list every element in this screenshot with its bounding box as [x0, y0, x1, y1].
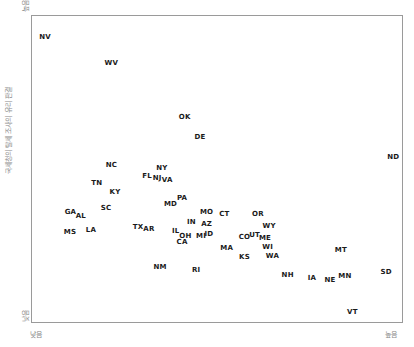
x-axis-low-label: 낮음	[30, 329, 42, 339]
data-point-me: ME	[259, 234, 271, 242]
data-point-pa: PA	[177, 194, 187, 202]
y-axis-low-label: 낮음	[20, 310, 30, 322]
data-point-ga: GA	[65, 208, 77, 216]
data-point-or: OR	[252, 210, 264, 218]
data-point-nc: NC	[106, 161, 117, 169]
data-point-ok: OK	[179, 113, 191, 121]
data-point-nv: NV	[39, 33, 51, 41]
data-point-sc: SC	[101, 204, 112, 212]
data-point-wv: WV	[105, 59, 119, 67]
data-point-ri: RI	[192, 266, 200, 274]
data-point-ca: CA	[177, 238, 188, 246]
data-point-tx: TX	[133, 223, 144, 231]
data-point-wi: WI	[262, 243, 273, 251]
x-axis-high-label: 높음	[385, 329, 397, 339]
data-point-ar: AR	[143, 225, 154, 233]
data-point-md: MD	[164, 200, 177, 208]
data-point-ne: NE	[325, 276, 336, 284]
data-point-de: DE	[194, 133, 205, 141]
y-axis-high-label: 높음	[20, 0, 30, 12]
data-point-az: AZ	[201, 220, 212, 228]
data-point-wy: WY	[262, 222, 275, 230]
data-point-ks: KS	[239, 253, 250, 261]
data-point-ia: IA	[308, 274, 316, 282]
data-point-ky: KY	[110, 188, 121, 196]
data-point-mo: MO	[200, 208, 213, 216]
data-point-ma: MA	[220, 244, 233, 252]
data-point-nj: NJ	[153, 174, 162, 182]
data-point-al: AL	[76, 212, 86, 220]
data-point-va: VA	[162, 176, 173, 184]
data-point-nd: ND	[387, 153, 399, 161]
data-point-mt: MT	[335, 246, 347, 254]
y-axis-title: 국세청의 탈세 조사의 유리 판결	[3, 166, 13, 174]
y-axis-title-text: 국세청의 탈세 조사의 유리 판결	[3, 166, 13, 174]
data-point-sd: SD	[381, 268, 392, 276]
data-point-la: LA	[86, 226, 96, 234]
data-point-nm: NM	[153, 263, 166, 271]
data-point-ms: MS	[64, 228, 76, 236]
data-point-mn: MN	[338, 272, 351, 280]
data-point-id: ID	[204, 230, 213, 238]
data-point-tn: TN	[91, 179, 102, 187]
data-point-nh: NH	[282, 271, 294, 279]
data-point-wa: WA	[266, 252, 279, 260]
data-point-vt: VT	[347, 308, 358, 316]
data-point-ny: NY	[156, 164, 167, 172]
data-point-ct: CT	[219, 210, 229, 218]
data-point-in: IN	[187, 218, 196, 226]
data-point-fl: FL	[142, 172, 152, 180]
